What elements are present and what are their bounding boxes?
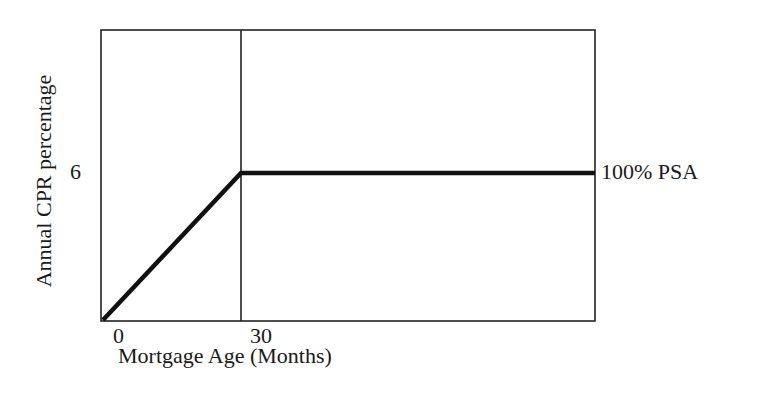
psa-chart	[0, 0, 765, 419]
y-axis-label: Annual CPR percentage	[31, 75, 57, 288]
psa-100-series-line	[103, 173, 595, 320]
x-axis-label: Mortgage Age (Months)	[118, 343, 332, 369]
series-label-100-psa: 100% PSA	[601, 159, 698, 185]
plot-frame	[101, 30, 595, 321]
y-tick-6: 6	[70, 159, 81, 185]
